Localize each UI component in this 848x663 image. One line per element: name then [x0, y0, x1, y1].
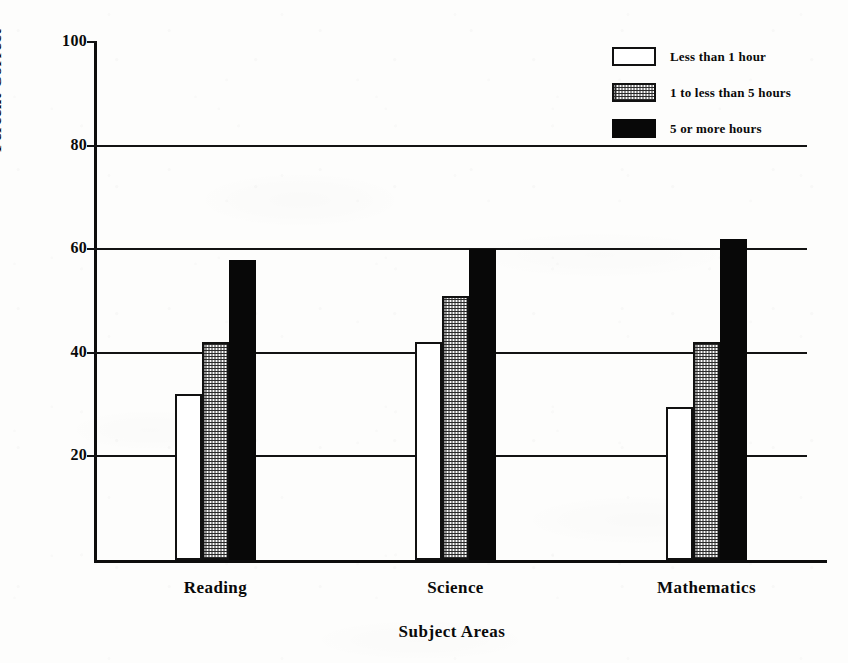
y-tick-20: [87, 455, 97, 457]
y-tick-40: [87, 352, 97, 354]
y-tick-60: [87, 248, 97, 250]
bar-reading-white: [175, 394, 202, 560]
legend-label-black: 5 or more hours: [670, 121, 762, 137]
bar-group-science: [415, 42, 496, 560]
bar-mathematics-black: [720, 239, 747, 560]
legend: Less than 1 hour1 to less than 5 hours5 …: [612, 46, 842, 154]
bar-science-white: [415, 342, 442, 560]
x-tick-label-mathematics: Mathematics: [657, 578, 756, 598]
bar-mathematics-white: [666, 407, 693, 560]
legend-label-dotted: 1 to less than 5 hours: [670, 85, 791, 101]
x-axis-title: Subject Areas: [97, 622, 807, 642]
y-axis-title: Percent Correct: [0, 0, 6, 152]
x-axis-line: [94, 560, 827, 563]
legend-item-white: Less than 1 hour: [612, 46, 842, 67]
legend-swatch-dotted: [612, 83, 656, 102]
x-tick-label-reading: Reading: [184, 578, 247, 598]
bar-mathematics-dotted: [693, 342, 720, 560]
chart-page: Percent Correct 20406080100 ReadingScien…: [0, 0, 848, 663]
legend-swatch-black: [612, 119, 656, 138]
y-tick-label-100: 100: [41, 33, 87, 49]
y-tick-100: [87, 41, 97, 43]
bar-reading-dotted: [202, 342, 229, 560]
bar-science-dotted: [442, 296, 469, 560]
y-tick-label-80: 80: [41, 137, 87, 153]
y-tick-label-layer: 20406080100: [35, 42, 87, 560]
legend-swatch-white: [612, 47, 656, 66]
y-tick-80: [87, 145, 97, 147]
x-tick-label-science: Science: [427, 578, 484, 598]
y-tick-label-20: 20: [41, 447, 87, 463]
y-tick-label-60: 60: [41, 240, 87, 256]
y-axis-line: [94, 42, 97, 563]
legend-item-dotted: 1 to less than 5 hours: [612, 82, 842, 103]
bar-group-reading: [175, 42, 256, 560]
y-tick-label-40: 40: [41, 344, 87, 360]
legend-label-white: Less than 1 hour: [670, 49, 766, 65]
bar-reading-black: [229, 260, 256, 560]
bar-science-black: [469, 249, 496, 560]
legend-item-black: 5 or more hours: [612, 118, 842, 139]
